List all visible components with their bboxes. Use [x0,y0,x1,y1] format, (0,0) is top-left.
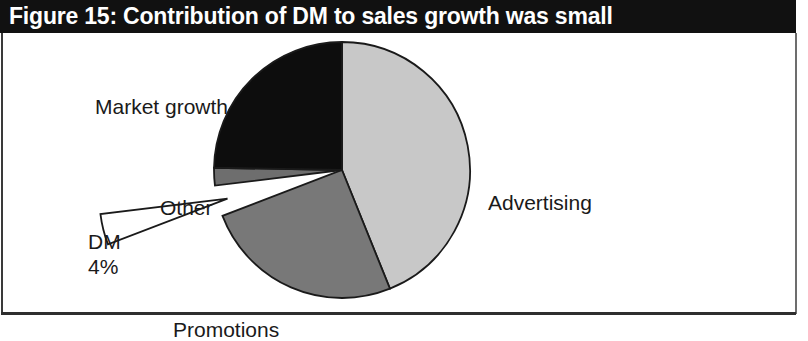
pie-chart [0,33,796,312]
figure-bottom-rule [1,312,796,315]
pie-label-dm-value: 4% [88,255,118,279]
pie-label-advertising: Advertising [488,191,592,215]
pie-label-market-growth: Market growth [95,95,228,119]
chart-plot-area: Market growth Advertising Promotions Oth… [0,33,796,312]
pie-label-promotions: Promotions [173,318,279,341]
figure-title-bar: Figure 15: Contribution of DM to sales g… [0,0,796,33]
pie-slice-market-growth[interactable] [214,42,342,170]
pie-label-dm: DM [88,230,121,254]
figure-title: Figure 15: Contribution of DM to sales g… [9,1,613,32]
pie-label-other: Other [160,196,213,220]
